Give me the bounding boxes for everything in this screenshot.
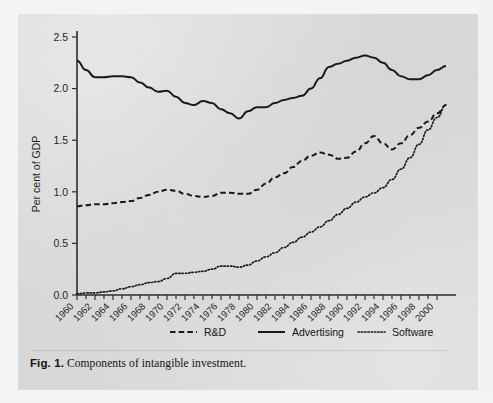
chart-series <box>77 56 446 294</box>
y-tick-label: 1.5 <box>53 134 68 146</box>
caption-separator <box>30 350 450 351</box>
series-line-r-d <box>77 105 446 206</box>
x-tick-label: 1978 <box>215 301 238 324</box>
y-tick-label: 0.0 <box>53 289 68 301</box>
y-tick-label: 2.0 <box>53 82 68 94</box>
x-tick-label: 1990 <box>323 301 346 324</box>
legend-label-advertising: Advertising <box>292 326 344 338</box>
x-tick-label: 1976 <box>197 301 220 324</box>
legend-label-software: Software <box>392 326 434 338</box>
x-tick-label: 1996 <box>377 301 400 324</box>
legend-label-r-d: R&D <box>204 326 227 338</box>
x-tick-label: 1974 <box>179 301 202 324</box>
x-tick-label: 1998 <box>395 301 418 324</box>
caption-label: Fig. 1. <box>30 357 64 369</box>
x-tick-label: 1962 <box>71 301 94 324</box>
x-tick-label: 2000 <box>413 301 436 324</box>
y-tick-label: 2.5 <box>53 31 68 43</box>
series-line-advertising <box>77 56 446 119</box>
y-tick-label: 1.0 <box>53 186 68 198</box>
figure-caption: Fig. 1. Components of intangible investm… <box>30 357 450 369</box>
x-tick-label: 1960 <box>53 301 76 324</box>
x-tick-label: 1968 <box>125 301 148 324</box>
page-edge-right <box>478 0 493 403</box>
y-axis-title: Per cent of GDP <box>30 136 42 212</box>
x-tick-label: 1994 <box>359 301 382 324</box>
x-tick-label: 1964 <box>89 301 112 324</box>
page-edge-left <box>0 0 18 403</box>
x-tick-label: 1992 <box>341 301 364 324</box>
x-axis-ticks: 1960196219641966196819701972197419761978… <box>53 295 437 323</box>
x-tick-label: 1980 <box>233 301 256 324</box>
x-tick-label: 1982 <box>251 301 274 324</box>
x-tick-label: 1984 <box>269 301 292 324</box>
series-line-software <box>77 105 446 294</box>
page-edge-top <box>0 0 493 14</box>
line-chart: 0.00.51.01.52.02.5 196019621964196619681… <box>18 14 478 354</box>
x-axis: 1960196219641966196819701972197419761978… <box>53 295 456 323</box>
chart-legend: R&DAdvertisingSoftware <box>170 326 434 338</box>
y-axis-ticks: 0.00.51.01.52.02.5 <box>53 31 77 301</box>
y-axis: 0.00.51.01.52.02.5 <box>53 31 77 301</box>
caption-text: Components of intangible investment. <box>67 357 246 369</box>
x-tick-label: 1970 <box>143 301 166 324</box>
x-tick-label: 1966 <box>107 301 130 324</box>
y-tick-label: 0.5 <box>53 237 68 249</box>
page-edge-bottom <box>0 390 493 403</box>
x-tick-label: 1986 <box>287 301 310 324</box>
x-tick-label: 1988 <box>305 301 328 324</box>
x-tick-label: 1972 <box>161 301 184 324</box>
